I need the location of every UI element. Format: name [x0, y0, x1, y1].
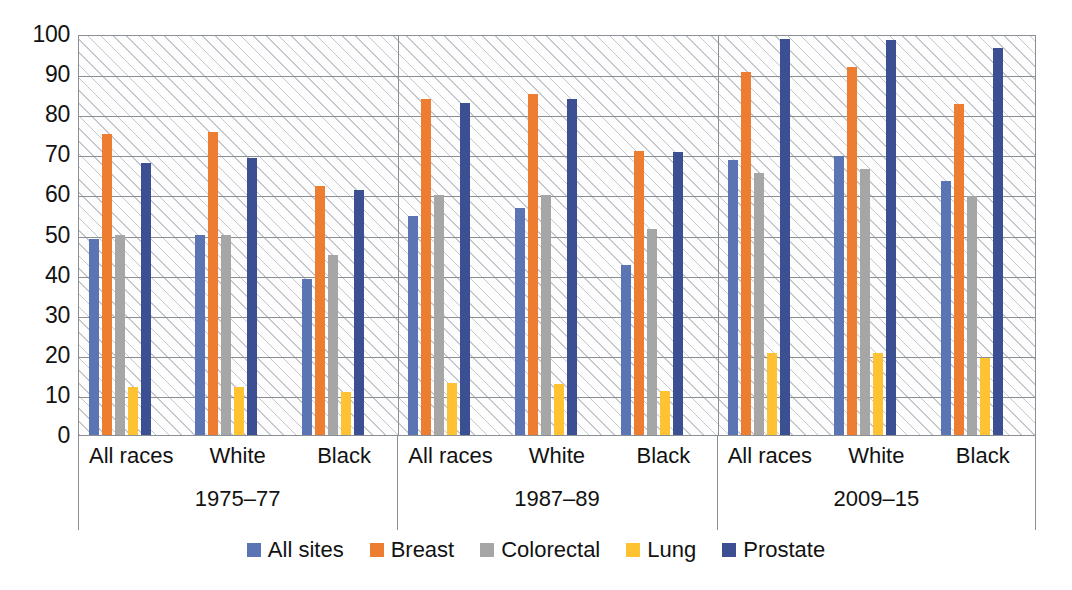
bar [621, 265, 631, 435]
bar [886, 40, 896, 435]
bar [541, 195, 551, 435]
bar [873, 353, 883, 435]
y-axis-tick-label: 100 [0, 23, 70, 46]
bar [767, 353, 777, 435]
category-label: All races [78, 443, 184, 469]
bar [728, 160, 738, 435]
bar [980, 358, 990, 435]
bar [954, 104, 964, 435]
legend-swatch-icon [626, 543, 640, 557]
category-label: Black [291, 443, 397, 469]
bar [528, 94, 538, 435]
legend-swatch-icon [722, 543, 736, 557]
bar [993, 48, 1003, 435]
y-axis-tick-label: 20 [0, 344, 70, 367]
legend-entry[interactable]: Breast [370, 538, 455, 562]
bar [780, 39, 790, 435]
bar [754, 173, 764, 435]
period-label: 1975–77 [78, 486, 397, 512]
bar [460, 103, 470, 435]
bar [421, 99, 431, 435]
legend-entry[interactable]: Colorectal [480, 538, 600, 562]
legend-label: Prostate [743, 538, 825, 562]
legend-entry[interactable]: All sites [247, 538, 344, 562]
bar [941, 181, 951, 435]
legend-label: Breast [391, 538, 455, 562]
bar [354, 190, 364, 435]
legend-swatch-icon [247, 543, 261, 557]
bar [660, 391, 670, 435]
bar [554, 384, 564, 435]
bar [115, 235, 125, 435]
y-axis-tick-label: 10 [0, 384, 70, 407]
category-label: All races [397, 443, 503, 469]
category-label: White [184, 443, 290, 469]
bar [634, 151, 644, 435]
category-label: White [823, 443, 929, 469]
y-axis-tick-label: 80 [0, 103, 70, 126]
category-label: White [504, 443, 610, 469]
bar [195, 235, 205, 435]
y-axis-tick-label: 0 [0, 424, 70, 447]
bar-chart: 1009080706050403020100 All racesWhiteBla… [0, 0, 1072, 590]
bars-layer [79, 36, 1035, 435]
period-label: 1987–89 [397, 486, 716, 512]
bar [673, 152, 683, 436]
plot-area [78, 35, 1036, 436]
category-label: Black [930, 443, 1036, 469]
legend-label: All sites [268, 538, 344, 562]
bar [515, 208, 525, 435]
bar [741, 72, 751, 435]
y-axis-tick-label: 60 [0, 183, 70, 206]
bar [128, 387, 138, 435]
legend-label: Lung [647, 538, 696, 562]
y-axis-tick-label: 70 [0, 143, 70, 166]
bar [341, 392, 351, 435]
bar [834, 156, 844, 435]
bar [567, 99, 577, 435]
y-axis-tick-label: 40 [0, 264, 70, 287]
chart-legend: All sitesBreastColorectalLungProstate [0, 533, 1072, 567]
bar [102, 134, 112, 435]
bar [847, 67, 857, 435]
bar [860, 169, 870, 435]
bar [408, 216, 418, 435]
y-axis-tick-label: 90 [0, 63, 70, 86]
bar [967, 196, 977, 435]
category-label: Black [610, 443, 716, 469]
bar [221, 235, 231, 435]
period-label: 2009–15 [717, 486, 1036, 512]
bar [434, 195, 444, 435]
bar [315, 186, 325, 435]
legend-label: Colorectal [501, 538, 600, 562]
y-axis: 1009080706050403020100 [0, 0, 70, 460]
bar [89, 239, 99, 435]
y-axis-tick-label: 50 [0, 224, 70, 247]
bar [234, 387, 244, 435]
category-label: All races [717, 443, 823, 469]
bar [302, 279, 312, 435]
bar [647, 229, 657, 436]
legend-swatch-icon [370, 543, 384, 557]
bar [247, 158, 257, 435]
y-axis-tick-label: 30 [0, 304, 70, 327]
bar [447, 383, 457, 435]
legend-entry[interactable]: Prostate [722, 538, 825, 562]
bar [141, 163, 151, 435]
legend-swatch-icon [480, 543, 494, 557]
bar [208, 132, 218, 435]
legend-entry[interactable]: Lung [626, 538, 696, 562]
category-axis: All racesWhiteBlackAll racesWhiteBlackAl… [78, 436, 1036, 530]
bar [328, 255, 338, 435]
